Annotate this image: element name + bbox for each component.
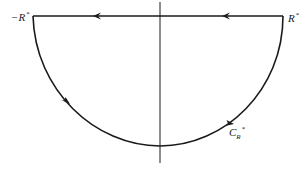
label-minus-r-star: −R*: [11, 11, 30, 23]
label-sub: R: [236, 133, 240, 141]
label-text: −R: [11, 11, 25, 23]
label-text: R: [288, 12, 295, 24]
label-sup: *: [296, 11, 300, 19]
contour-diagram: [0, 0, 308, 169]
label-sup: *: [242, 125, 246, 133]
label-sup: *: [26, 10, 30, 18]
label-r-star: R*: [288, 12, 299, 24]
arc-c-r: [33, 16, 283, 146]
label-c-r-star: CR*: [229, 126, 245, 141]
